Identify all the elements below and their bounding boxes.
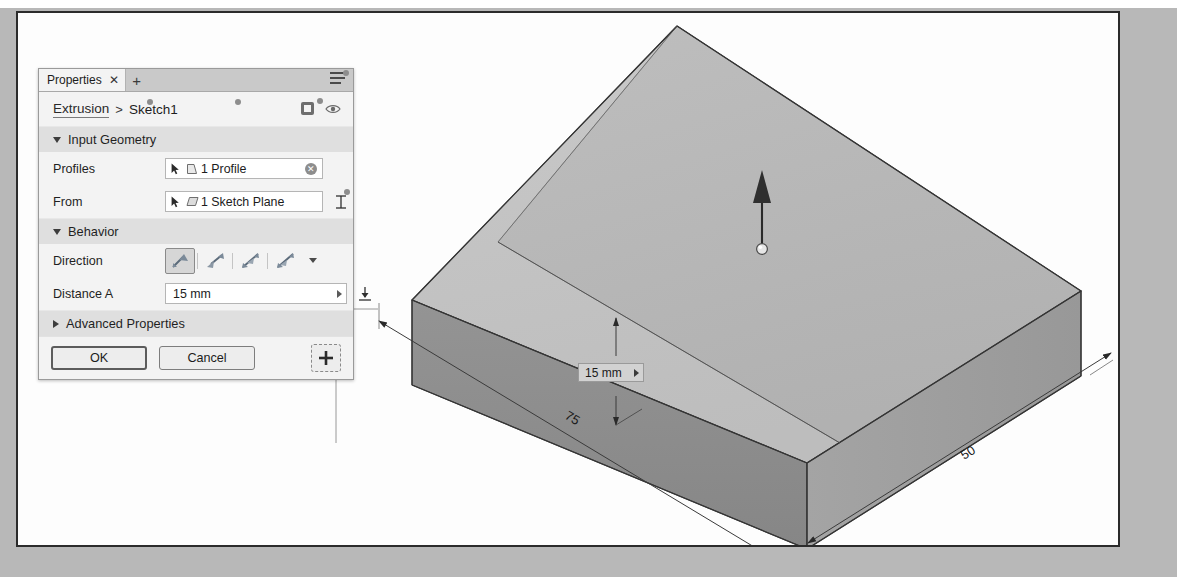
menu-badge-dot: [343, 70, 349, 76]
direction-one-side-icon[interactable]: [165, 248, 195, 274]
direction-separator: [267, 253, 268, 269]
canvas-inline-distance-editor[interactable]: 15 mm: [578, 363, 644, 382]
breadcrumb-current-badge: [235, 99, 241, 105]
cursor-arrow-icon: [171, 196, 180, 208]
properties-panel[interactable]: Properties ✕ + Extrusion > Sketch1: [38, 68, 354, 380]
page-top-white-margin: [0, 0, 1177, 8]
direction-asymmetric-icon[interactable]: [270, 248, 300, 274]
offset-start-icon[interactable]: [329, 194, 353, 210]
chevron-right-icon[interactable]: [337, 290, 342, 298]
eye-visibility-icon[interactable]: [325, 103, 341, 115]
distance-a-input[interactable]: [173, 287, 333, 301]
chevron-down-icon[interactable]: [302, 258, 324, 263]
from-select-field[interactable]: 1 Sketch Plane: [165, 191, 323, 212]
row-from: From 1 Sketch Plane: [39, 185, 353, 218]
plus-icon: [317, 349, 335, 367]
ok-button[interactable]: OK: [51, 346, 147, 370]
new-solid-body-icon[interactable]: [301, 102, 316, 117]
label-profiles: Profiles: [53, 162, 165, 176]
direction-symmetric-icon[interactable]: [235, 248, 265, 274]
canvas-inline-distance-value: 15 mm: [585, 366, 622, 380]
tab-properties-label: Properties: [47, 73, 102, 87]
solid-icon-badge: [317, 98, 323, 104]
label-distance-a: Distance A: [53, 287, 165, 301]
profiles-select-field[interactable]: 1 Profile ✕: [165, 158, 323, 179]
cursor-arrow-icon: [171, 163, 180, 175]
clear-selection-icon[interactable]: ✕: [305, 163, 317, 175]
panel-tabstrip: Properties ✕ +: [39, 69, 353, 92]
chevron-right-icon[interactable]: [634, 369, 639, 377]
section-title-input-geometry: Input Geometry: [68, 132, 156, 147]
direction-flipped-icon[interactable]: [200, 248, 230, 274]
from-tool-badge: [344, 189, 350, 195]
direction-separator: [197, 253, 198, 269]
chevron-down-icon: [53, 137, 61, 143]
distance-a-field[interactable]: [165, 283, 347, 304]
tab-properties[interactable]: Properties ✕: [39, 69, 126, 91]
row-distance-a: Distance A: [39, 277, 353, 310]
profile-face-icon: [186, 163, 195, 175]
section-header-advanced-properties[interactable]: Advanced Properties: [39, 310, 353, 336]
breadcrumb-parent-badge: [147, 99, 153, 105]
chevron-right-icon: [53, 320, 59, 328]
add-tab-button[interactable]: +: [126, 69, 148, 91]
breadcrumb-parent[interactable]: Extrusion: [53, 101, 109, 118]
sketch-plane-icon: [186, 196, 195, 208]
label-from: From: [53, 195, 165, 209]
profiles-value: 1 Profile: [201, 162, 299, 176]
close-icon[interactable]: ✕: [109, 74, 119, 86]
direction-separator: [232, 253, 233, 269]
panel-footer: OK Cancel: [39, 336, 353, 379]
breadcrumb-separator: >: [115, 102, 123, 117]
direction-option-group: [165, 248, 353, 274]
cancel-button[interactable]: Cancel: [159, 346, 255, 370]
breadcrumb: Extrusion > Sketch1: [39, 92, 353, 126]
chevron-down-icon: [53, 229, 61, 235]
section-header-behavior[interactable]: Behavior: [39, 218, 353, 244]
row-direction: Direction: [39, 244, 353, 277]
section-title-advanced-properties: Advanced Properties: [66, 316, 185, 331]
label-direction: Direction: [53, 254, 165, 268]
row-profiles: Profiles 1 Profile ✕: [39, 152, 353, 185]
measure-to-icon[interactable]: [353, 286, 377, 302]
breadcrumb-current[interactable]: Sketch1: [129, 102, 178, 117]
section-header-input-geometry[interactable]: Input Geometry: [39, 126, 353, 152]
section-title-behavior: Behavior: [68, 224, 119, 239]
from-value: 1 Sketch Plane: [201, 195, 317, 209]
add-feature-button[interactable]: [311, 344, 341, 372]
